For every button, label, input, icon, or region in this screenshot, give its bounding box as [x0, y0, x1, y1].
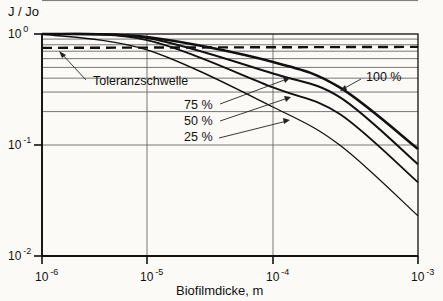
label-75: 75 %: [184, 98, 213, 112]
label-50: 50 %: [184, 114, 213, 128]
grid-lines: [42, 0, 418, 256]
y-tick-label: 10-1: [8, 135, 31, 152]
threshold-arrow: [61, 53, 86, 80]
arrowhead-icon: [284, 96, 291, 102]
x-tick-label: 10-3: [411, 267, 434, 284]
threshold-line: [42, 47, 418, 48]
series-curve-25: [42, 34, 418, 216]
tick-labels: 10-610-510-410-310010-110-2: [8, 24, 434, 284]
label-25: 25 %: [184, 130, 213, 144]
y-tick-label: 10-2: [8, 246, 31, 263]
arrow-25: [219, 121, 287, 138]
threshold-dashed-line: [42, 47, 418, 48]
data-series: [42, 34, 418, 216]
x-tick-label: 10-5: [140, 267, 163, 284]
arrowhead-icon: [283, 77, 290, 83]
y-axis-title: J / Jo: [8, 4, 39, 19]
arrow-75: [220, 79, 287, 104]
y-tick-label: 100: [8, 24, 28, 41]
arrowhead-icon: [283, 118, 290, 124]
x-tick-label: 10-6: [35, 267, 58, 284]
chart: 10-610-510-410-310010-110-2 J / Jo Biofi…: [0, 0, 443, 301]
x-axis-title: Biofilmdicke, m: [176, 283, 263, 298]
label-100: 100 %: [366, 70, 401, 84]
x-tick-label: 10-4: [266, 267, 289, 284]
series-curve-50: [42, 34, 418, 182]
threshold-label: Toleranzschwelle: [93, 74, 188, 88]
